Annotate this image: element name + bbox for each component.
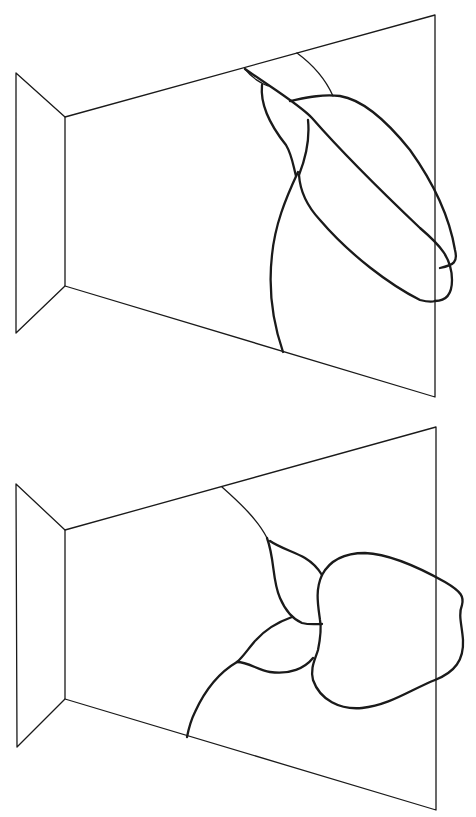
bottom-blob bbox=[312, 553, 463, 708]
top-band-right-curve bbox=[297, 53, 333, 96]
top-left-lobe bbox=[262, 85, 296, 176]
bottom-upper-petal-top bbox=[270, 541, 322, 575]
top-left-side-wall bbox=[16, 73, 65, 333]
top-long-diagonal-edge bbox=[245, 69, 452, 301]
bottom-top-arc bbox=[222, 487, 267, 538]
top-panel bbox=[16, 15, 456, 397]
bottom-lower-petal-base bbox=[237, 658, 313, 673]
bottom-stem-curve bbox=[187, 662, 237, 737]
bottom-back-wall bbox=[65, 427, 436, 810]
top-stem-curve bbox=[270, 172, 298, 352]
top-center-curve bbox=[299, 120, 435, 302]
bottom-upper-petal bbox=[267, 538, 322, 624]
bottom-left-side-wall bbox=[16, 484, 65, 747]
figure-canvas bbox=[0, 0, 476, 817]
bottom-lower-petal bbox=[237, 617, 292, 662]
bottom-panel bbox=[16, 427, 463, 810]
